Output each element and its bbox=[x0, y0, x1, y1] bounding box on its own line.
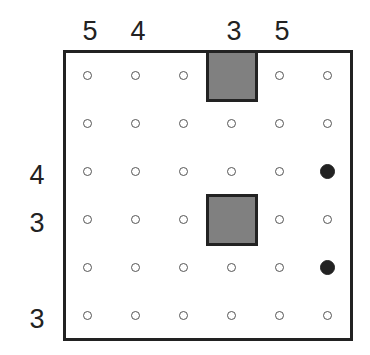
empty-dot[interactable] bbox=[83, 263, 92, 272]
left-clue: 4 bbox=[22, 160, 52, 190]
empty-dot[interactable] bbox=[131, 215, 140, 224]
empty-dot[interactable] bbox=[131, 167, 140, 176]
black-dot[interactable] bbox=[320, 164, 335, 179]
empty-dot[interactable] bbox=[275, 119, 284, 128]
empty-dot[interactable] bbox=[275, 71, 284, 80]
empty-dot[interactable] bbox=[227, 167, 236, 176]
shaded-block bbox=[206, 50, 258, 102]
empty-dot[interactable] bbox=[131, 311, 140, 320]
empty-dot[interactable] bbox=[323, 311, 332, 320]
empty-dot[interactable] bbox=[131, 263, 140, 272]
empty-dot[interactable] bbox=[275, 215, 284, 224]
empty-dot[interactable] bbox=[323, 119, 332, 128]
shaded-block bbox=[206, 194, 258, 246]
black-dot[interactable] bbox=[320, 260, 335, 275]
left-clue: 3 bbox=[22, 304, 52, 334]
empty-dot[interactable] bbox=[323, 71, 332, 80]
empty-dot[interactable] bbox=[83, 119, 92, 128]
empty-dot[interactable] bbox=[179, 167, 188, 176]
empty-dot[interactable] bbox=[323, 215, 332, 224]
left-clue: 3 bbox=[22, 208, 52, 238]
top-clue: 5 bbox=[75, 16, 105, 46]
empty-dot[interactable] bbox=[131, 119, 140, 128]
empty-dot[interactable] bbox=[227, 119, 236, 128]
empty-dot[interactable] bbox=[275, 263, 284, 272]
empty-dot[interactable] bbox=[83, 71, 92, 80]
empty-dot[interactable] bbox=[83, 311, 92, 320]
empty-dot[interactable] bbox=[179, 119, 188, 128]
empty-dot[interactable] bbox=[179, 263, 188, 272]
empty-dot[interactable] bbox=[275, 167, 284, 176]
top-clue: 4 bbox=[123, 16, 153, 46]
empty-dot[interactable] bbox=[275, 311, 284, 320]
empty-dot[interactable] bbox=[131, 71, 140, 80]
top-clue: 5 bbox=[267, 16, 297, 46]
top-clue: 3 bbox=[219, 16, 249, 46]
empty-dot[interactable] bbox=[227, 311, 236, 320]
empty-dot[interactable] bbox=[227, 263, 236, 272]
empty-dot[interactable] bbox=[83, 167, 92, 176]
empty-dot[interactable] bbox=[179, 311, 188, 320]
empty-dot[interactable] bbox=[179, 71, 188, 80]
empty-dot[interactable] bbox=[179, 215, 188, 224]
puzzle-grid bbox=[63, 50, 353, 341]
empty-dot[interactable] bbox=[83, 215, 92, 224]
